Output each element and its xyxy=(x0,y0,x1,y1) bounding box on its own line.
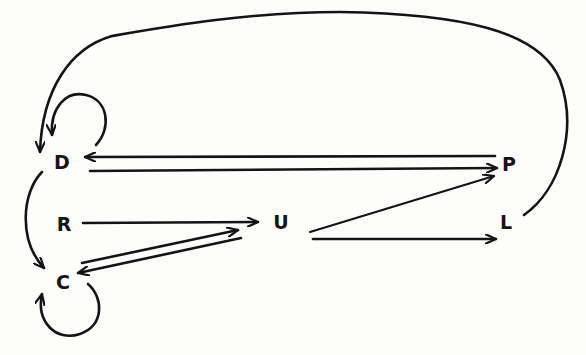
edge-R-to-U xyxy=(83,222,258,223)
edge-P-to-D xyxy=(85,156,495,157)
edge-L-to-D xyxy=(40,12,567,215)
edge-C-self-loop xyxy=(41,284,99,336)
edge-C-to-U xyxy=(82,230,238,263)
node-D: D xyxy=(54,151,70,173)
state-transition-diagram: D R C U P L xyxy=(0,0,586,355)
edge-D-self-loop xyxy=(52,94,106,145)
edge-D-to-P xyxy=(90,168,497,171)
node-L: L xyxy=(500,211,512,233)
edge-U-to-P xyxy=(310,176,494,232)
node-P: P xyxy=(502,153,516,175)
node-R: R xyxy=(57,213,72,235)
node-C: C xyxy=(56,271,70,293)
edge-U-to-C xyxy=(78,238,241,273)
node-U: U xyxy=(273,211,288,233)
edge-D-to-C xyxy=(26,172,44,268)
